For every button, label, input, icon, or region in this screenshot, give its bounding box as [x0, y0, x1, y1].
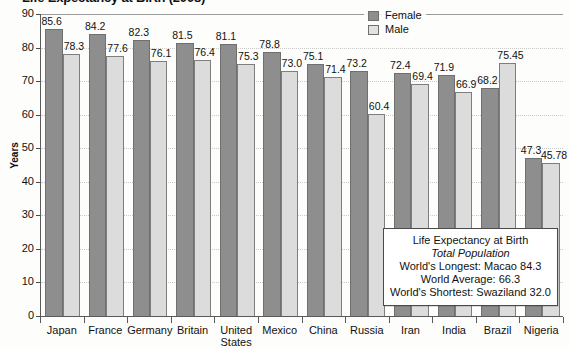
bar-female[interactable]: 85.6 [45, 29, 62, 316]
y-tick-label: 0 [8, 310, 34, 321]
chart-title: Life Expectancy at Birth (2008) [22, 0, 205, 5]
bar-female[interactable]: 78.8 [263, 52, 280, 316]
y-tick-label: 30 [8, 209, 34, 220]
bar-value-label: 72.4 [390, 60, 410, 71]
callout-line-5: World's Shortest: Swaziland 32.0 [388, 286, 553, 299]
y-tick-label: 50 [8, 142, 34, 153]
bar-value-label: 75.1 [303, 51, 323, 62]
y-tick-label: 70 [8, 75, 34, 86]
bar-value-label: 71.4 [325, 64, 345, 75]
x-tick-mark [214, 317, 215, 323]
bar-value-label: 73.0 [282, 58, 302, 69]
bar-value-label: 77.6 [107, 43, 127, 54]
bar-value-label: 60.4 [369, 101, 389, 112]
y-axis-tick-labels: 9080706050403020100 [8, 0, 34, 348]
x-tick-mark [389, 317, 390, 323]
x-axis-label-germany: Germany [127, 324, 171, 336]
x-tick-mark [432, 317, 433, 323]
bar-value-label: 71.9 [434, 62, 454, 73]
bar-female[interactable]: 82.3 [133, 40, 150, 316]
bar-value-label: 75.3 [238, 51, 258, 62]
y-tick-label: 20 [8, 243, 34, 254]
legend-label: Male [385, 24, 409, 35]
callout-line-4: World Average: 66.3 [388, 273, 553, 286]
bar-male[interactable]: 73.0 [281, 71, 298, 316]
x-tick-mark [519, 317, 520, 323]
x-tick-mark [476, 317, 477, 323]
y-tick-label: 90 [8, 8, 34, 19]
bar-value-label: 85.6 [41, 16, 61, 27]
x-axis-category-labels: JapanFranceGermanyBritainUnited StatesMe… [40, 317, 563, 348]
bar-female[interactable]: 81.1 [220, 44, 237, 316]
life-expectancy-bar-chart: Life Expectancy at Birth (2008) Years 90… [0, 0, 569, 348]
legend-label: Female [385, 10, 422, 21]
x-axis-label-nigeria: Nigeria [519, 324, 563, 336]
bar-value-label: 81.5 [172, 30, 192, 41]
chart-legend: FemaleMale [364, 8, 426, 37]
callout-line-1: Life Expectancy at Birth [388, 234, 553, 247]
x-tick-mark [345, 317, 346, 323]
bar-value-label: 78.8 [259, 39, 279, 50]
bar-male[interactable]: 77.6 [106, 56, 123, 316]
bar-male[interactable]: 76.1 [150, 61, 167, 316]
bar-value-label: 81.1 [216, 31, 236, 42]
bar-value-label: 69.4 [412, 71, 432, 82]
bar-value-label: 82.3 [129, 27, 149, 38]
bar-group: 81.576.4 [172, 14, 216, 316]
bar-group: 84.277.6 [85, 14, 129, 316]
legend-swatch-male [368, 25, 379, 35]
x-tick-mark [258, 317, 259, 323]
bar-value-label: 78.3 [64, 41, 84, 52]
bar-male[interactable]: 75.3 [237, 64, 254, 316]
x-axis-label-india: India [432, 324, 476, 336]
annotation-callout-box: Life Expectancy at Birth Total Populatio… [383, 228, 558, 306]
bar-value-label: 68.2 [477, 75, 497, 86]
x-tick-mark [302, 317, 303, 323]
bar-value-label: 84.2 [85, 21, 105, 32]
legend-item[interactable]: Female [368, 10, 422, 21]
x-axis-label-france: France [84, 324, 128, 336]
bar-value-label: 73.2 [346, 58, 366, 69]
callout-line-2: Total Population [388, 247, 553, 260]
bar-group: 78.873.0 [259, 14, 303, 316]
x-axis-label-brazil: Brazil [476, 324, 520, 336]
bar-group: 75.171.4 [303, 14, 347, 316]
callout-line-3: World's Longest: Macao 84.3 [388, 260, 553, 273]
x-axis-label-iran: Iran [389, 324, 433, 336]
x-axis-label-mexico: Mexico [258, 324, 302, 336]
bar-value-label: 76.1 [151, 48, 171, 59]
bar-female[interactable]: 84.2 [89, 34, 106, 316]
bar-male[interactable]: 78.3 [63, 54, 80, 316]
bar-male[interactable]: 71.4 [324, 77, 341, 316]
y-tick-label: 80 [8, 42, 34, 53]
x-axis-label-japan: Japan [40, 324, 84, 336]
bar-group: 82.376.1 [128, 14, 172, 316]
legend-item[interactable]: Male [368, 24, 422, 35]
x-axis-label-russia: Russia [345, 324, 389, 336]
bar-female[interactable]: 81.5 [176, 43, 193, 316]
bar-value-label: 45.78 [541, 150, 567, 161]
y-tick-label: 10 [8, 276, 34, 287]
legend-swatch-female [368, 11, 379, 21]
x-axis-label-britain: Britain [171, 324, 215, 336]
y-tick-label: 40 [8, 176, 34, 187]
bar-female[interactable]: 75.1 [307, 64, 324, 316]
bar-value-label: 76.4 [194, 47, 214, 58]
x-axis-label-united-states: United States [214, 324, 258, 348]
y-tick-label: 60 [8, 109, 34, 120]
bar-male[interactable]: 76.4 [194, 60, 211, 316]
bar-group: 81.175.3 [215, 14, 259, 316]
bar-female[interactable]: 73.2 [350, 71, 367, 316]
x-tick-mark [40, 317, 41, 323]
bar-value-label: 66.9 [456, 79, 476, 90]
x-tick-mark [127, 317, 128, 323]
bar-value-label: 47.3 [521, 145, 541, 156]
x-tick-mark [563, 317, 564, 323]
bar-group: 85.678.3 [41, 14, 85, 316]
x-tick-mark [84, 317, 85, 323]
x-axis-label-china: China [302, 324, 346, 336]
x-tick-mark [171, 317, 172, 323]
